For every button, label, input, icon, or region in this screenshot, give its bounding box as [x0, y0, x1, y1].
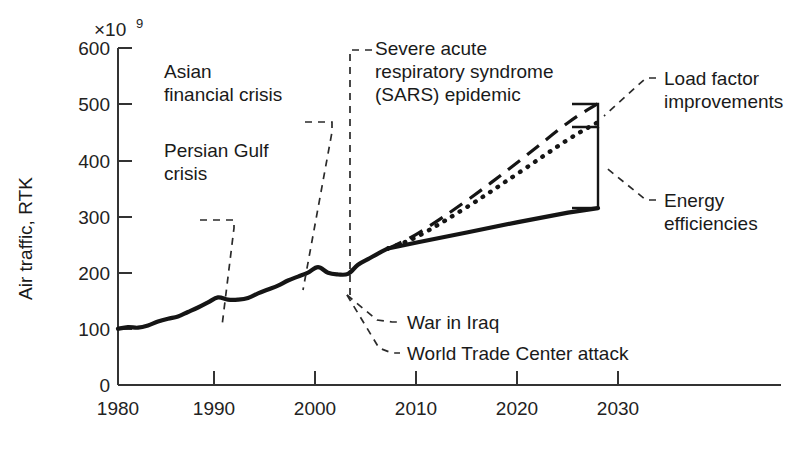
y-multiplier-base: ×10	[94, 19, 126, 40]
x-tick-label-2000: 2000	[294, 398, 336, 419]
chart-figure: 600 500 400 300 200 100 0 ×10 9 1980 199…	[0, 0, 793, 449]
annotation-energy-line1: Energy	[664, 190, 725, 211]
series-line-historical	[118, 249, 388, 329]
y-tick-label-400: 400	[78, 151, 110, 172]
annotation-asian-crisis-line2: financial crisis	[164, 84, 282, 105]
y-tick-label-500: 500	[78, 94, 110, 115]
annotation-persian-gulf-line1: Persian Gulf	[164, 140, 269, 161]
leader-line-wtc-attack	[347, 295, 400, 353]
annotation-asian-crisis-line1: Asian	[164, 61, 212, 82]
y-tick-label-100: 100	[78, 319, 110, 340]
y-axis-title: Air traffic, RTK	[15, 177, 36, 300]
series-group	[118, 104, 598, 329]
y-tick-label-0: 0	[99, 375, 110, 396]
x-tick-labels: 1980 1990 2000 2010 2020 2030	[97, 398, 639, 419]
annotation-load-factor-line2: improvements	[664, 91, 783, 112]
annotation-load-factor-line1: Load factor	[664, 68, 760, 89]
y-tick-labels: 600 500 400 300 200 100 0	[78, 38, 110, 396]
leader-line-asian-crisis	[303, 122, 332, 290]
y-axis-multiplier: ×10 9	[94, 16, 143, 40]
series-line-energy-efficiency-projection	[388, 122, 598, 248]
y-tick-label-600: 600	[78, 38, 110, 59]
x-tick-label-1990: 1990	[193, 398, 235, 419]
y-tick-label-300: 300	[78, 207, 110, 228]
air-traffic-line-chart: 600 500 400 300 200 100 0 ×10 9 1980 199…	[0, 0, 793, 449]
annotation-wtc-attack: World Trade Center attack	[407, 343, 629, 364]
annotation-energy-line2: efficiencies	[664, 213, 758, 234]
series-line-baseline-projection	[388, 208, 598, 248]
x-tick-label-2020: 2020	[496, 398, 538, 419]
x-tick-label-2030: 2030	[597, 398, 639, 419]
annotation-sars-line3: (SARS) epidemic	[375, 84, 521, 105]
leader-line-persian-gulf	[200, 220, 234, 326]
annotation-war-in-iraq: War in Iraq	[407, 312, 499, 333]
annotation-sars-line2: respiratory syndrome	[375, 61, 553, 82]
annotation-sars-line1: Severe acute	[375, 38, 487, 59]
x-tick-label-2010: 2010	[395, 398, 437, 419]
annotation-persian-gulf-line2: crisis	[164, 163, 207, 184]
x-tick-label-1980: 1980	[97, 398, 139, 419]
leader-line-load-factor	[604, 78, 656, 116]
y-tick-label-200: 200	[78, 263, 110, 284]
leader-line-energy-efficiencies	[604, 166, 656, 200]
y-multiplier-exponent: 9	[136, 16, 143, 31]
bracket-group	[572, 104, 598, 208]
